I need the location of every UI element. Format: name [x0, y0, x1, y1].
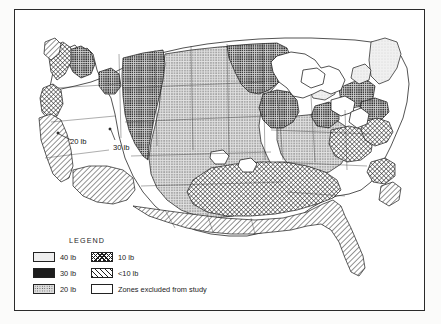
legend-label-10lb: 10 lb [118, 253, 134, 262]
legend-swatch-40lb [33, 252, 55, 262]
legend-swatch-10lb [91, 252, 113, 262]
legend-item-lt10lb: <10 lb [91, 268, 241, 279]
legend-label-lt10lb: <10 lb [118, 269, 138, 278]
figure-root: 20 lb 30 lb LEGEND 40 lb 30 lb 20 lb 1 [0, 0, 441, 324]
map-annotation-20lb: 20 lb [70, 137, 86, 146]
figure-frame: 20 lb 30 lb LEGEND 40 lb 30 lb 20 lb 1 [14, 9, 425, 311]
legend: LEGEND 40 lb 30 lb 20 lb 10 lb <10 l [33, 232, 238, 310]
legend-label-20lb: 20 lb [60, 285, 76, 294]
legend-swatch-20lb [33, 284, 55, 294]
legend-item-10lb: 10 lb [91, 252, 241, 263]
legend-title: LEGEND [69, 236, 105, 245]
map-annotation-30lb: 30 lb [113, 143, 129, 152]
legend-swatch-excluded [91, 284, 113, 294]
legend-swatch-lt10lb [91, 268, 113, 278]
legend-item-excluded: Zones excluded from study [91, 284, 241, 295]
legend-label-30lb: 30 lb [60, 269, 76, 278]
legend-swatch-30lb [33, 268, 55, 278]
legend-label-excluded: Zones excluded from study [118, 285, 207, 294]
legend-label-40lb: 40 lb [60, 253, 76, 262]
